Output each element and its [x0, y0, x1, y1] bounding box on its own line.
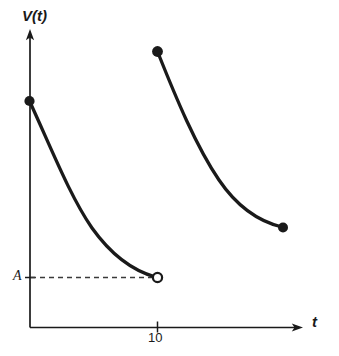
marker-open-end-first-branch [153, 273, 162, 282]
y-axis [26, 29, 34, 328]
chart-canvas [0, 0, 339, 356]
x-axis [30, 323, 303, 331]
curve-first-decay-branch [30, 101, 156, 277]
y-axis-label: V(t) [22, 7, 47, 24]
y-axis-level-label-a: A [13, 268, 22, 284]
marker-filled-start-first-branch [24, 96, 34, 106]
curve-second-decay-branch [158, 52, 283, 228]
marker-filled-end-second-branch [278, 223, 288, 233]
x-axis-tick-label-10: 10 [148, 330, 162, 345]
figure-root: V(t) t 10 A [0, 0, 339, 356]
x-axis-label: t [312, 313, 317, 330]
marker-filled-start-second-branch [152, 46, 163, 57]
